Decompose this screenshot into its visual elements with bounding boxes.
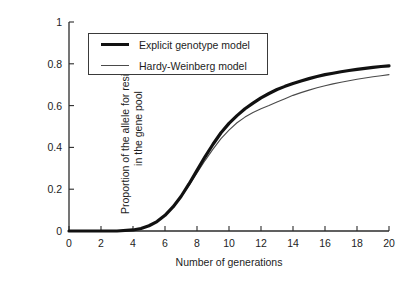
x-tick-label: 16 bbox=[319, 237, 331, 249]
series-line-hardy-weinberg-model bbox=[69, 75, 389, 231]
y-tick-label: 0.4 bbox=[28, 141, 62, 153]
x-tick-label: 14 bbox=[287, 237, 299, 249]
legend-swatch-thick-line-icon bbox=[101, 43, 129, 46]
legend-label-hardy-weinberg-model: Hardy-Weinberg model bbox=[139, 60, 247, 72]
y-axis-ticks bbox=[69, 22, 74, 231]
series-line-explicit-genotype-model bbox=[69, 66, 389, 231]
y-tick-label: 0.6 bbox=[28, 100, 62, 112]
data-series-group bbox=[69, 66, 389, 231]
x-tick-label: 10 bbox=[223, 237, 235, 249]
x-tick-label: 8 bbox=[194, 237, 200, 249]
legend-item-explicit-genotype-model: Explicit genotype model bbox=[89, 34, 267, 55]
legend-item-hardy-weinberg-model: Hardy-Weinberg model bbox=[89, 55, 267, 76]
legend-swatch-thin-line-icon bbox=[101, 65, 129, 66]
y-tick-label: 0 bbox=[28, 225, 62, 237]
x-tick-label: 12 bbox=[255, 237, 267, 249]
x-tick-label: 6 bbox=[162, 237, 168, 249]
x-tick-label: 18 bbox=[351, 237, 363, 249]
y-tick-label: 0.2 bbox=[28, 183, 62, 195]
x-tick-label: 2 bbox=[98, 237, 104, 249]
chart-legend: Explicit genotype model Hardy-Weinberg m… bbox=[88, 33, 268, 75]
y-tick-label: 0.8 bbox=[28, 58, 62, 70]
x-tick-label: 20 bbox=[383, 237, 395, 249]
chart-figure: 00.20.40.60.81 02468101214161820 Number … bbox=[0, 0, 407, 282]
legend-label-explicit-genotype-model: Explicit genotype model bbox=[139, 39, 250, 51]
x-axis-title: Number of generations bbox=[69, 256, 389, 268]
x-tick-label: 4 bbox=[130, 237, 136, 249]
x-tick-label: 0 bbox=[66, 237, 72, 249]
y-tick-label: 1 bbox=[28, 16, 62, 28]
